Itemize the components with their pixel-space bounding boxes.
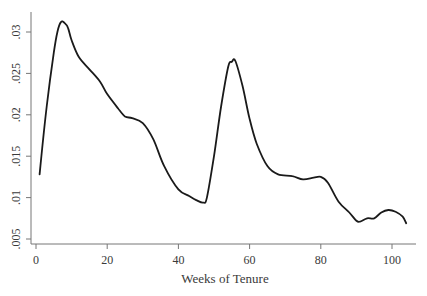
x-axis-ticks: 020406080100 xyxy=(33,244,401,267)
y-tick-label: .005 xyxy=(9,229,23,250)
y-tick-label: .01 xyxy=(9,190,23,205)
x-tick-label: 40 xyxy=(172,253,184,267)
y-tick-label: .015 xyxy=(9,146,23,167)
y-tick-label: .025 xyxy=(9,63,23,84)
x-tick-label: 0 xyxy=(33,253,39,267)
y-tick-label: .03 xyxy=(9,25,23,40)
x-tick-label: 20 xyxy=(101,253,113,267)
x-tick-label: 100 xyxy=(383,253,401,267)
y-tick-label: .02 xyxy=(9,107,23,122)
axes xyxy=(31,12,416,244)
x-tick-label: 60 xyxy=(244,253,256,267)
y-axis-ticks: .005.01.015.02.025.03 xyxy=(9,25,31,250)
x-tick-label: 80 xyxy=(315,253,327,267)
line-chart: .005.01.015.02.025.03 020406080100 Weeks… xyxy=(0,0,427,296)
density-curve xyxy=(40,21,407,223)
x-axis-title: Weeks of Tenure xyxy=(181,271,269,286)
